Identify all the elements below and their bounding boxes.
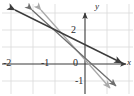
- plot-canvas: [0, 0, 134, 96]
- y-tick-label-2: 2: [71, 25, 76, 35]
- x-tick-label-zero: 0: [73, 58, 78, 68]
- x-tick-label-minus-2: -2: [3, 58, 11, 68]
- x-tick-label-minus-1: -1: [41, 58, 49, 68]
- x-axis-label: x: [127, 58, 131, 67]
- plot-line-2: [32, 10, 116, 86]
- graph-figure: y x -2 -1 0 2 -1: [0, 0, 134, 96]
- y-tick-label-minus-1: -1: [75, 76, 83, 86]
- grid-horizontal-lines: [2, 13, 133, 81]
- plot-line-1: [15, 10, 122, 63]
- y-axis-label: y: [95, 2, 99, 11]
